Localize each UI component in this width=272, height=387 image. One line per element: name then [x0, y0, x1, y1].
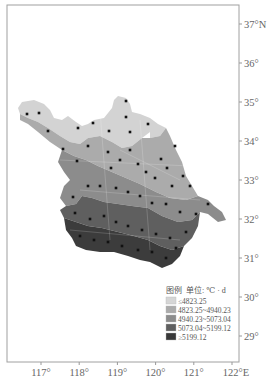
- station-marker: [26, 113, 29, 116]
- station-marker: [137, 163, 140, 166]
- station-marker: [166, 167, 169, 170]
- legend-swatch: [166, 315, 176, 322]
- x-tick-label: 122°E: [223, 367, 249, 378]
- y-tick-label: 37°N: [244, 19, 267, 30]
- station-marker: [165, 257, 168, 260]
- station-marker: [151, 202, 154, 205]
- x-tick-label: 119°: [108, 367, 128, 378]
- station-marker: [93, 239, 96, 242]
- station-marker: [110, 167, 113, 170]
- station-marker: [147, 123, 150, 126]
- station-marker: [89, 218, 92, 221]
- legend: 图例 单位: ℃ · d ≤4823.254823.25~4940.234940…: [166, 285, 231, 342]
- legend-swatch: [166, 297, 176, 304]
- y-tick-label: 35°: [244, 97, 259, 108]
- station-marker: [77, 127, 80, 130]
- x-tick-label: 120°: [146, 367, 166, 378]
- legend-swatch: [166, 324, 176, 331]
- station-marker: [195, 213, 198, 216]
- station-marker: [169, 237, 172, 240]
- station-marker: [165, 203, 168, 206]
- station-marker: [115, 221, 118, 224]
- station-marker: [145, 171, 148, 174]
- station-marker: [74, 212, 77, 215]
- station-marker: [125, 100, 128, 103]
- station-marker: [107, 241, 110, 244]
- station-marker: [141, 229, 144, 232]
- x-axis: 117°118°119°120°121°122°E: [31, 362, 249, 378]
- legend-label: 4823.25~4940.23: [178, 306, 231, 315]
- station-marker: [127, 225, 130, 228]
- station-marker: [47, 130, 50, 133]
- station-marker: [76, 160, 79, 163]
- station-marker: [155, 233, 158, 236]
- legend-swatch: [166, 306, 176, 313]
- station-marker: [137, 249, 140, 252]
- station-marker: [119, 159, 122, 162]
- legend-title: 图例: [166, 285, 182, 295]
- x-tick-label: 117°: [31, 367, 51, 378]
- station-marker: [62, 148, 65, 151]
- station-marker: [182, 175, 185, 178]
- station-marker: [108, 130, 111, 133]
- y-tick-label: 30°: [244, 292, 259, 303]
- y-tick-label: 36°: [244, 58, 259, 69]
- y-tick-label: 31°: [244, 253, 259, 264]
- station-marker: [79, 235, 82, 238]
- station-marker: [179, 211, 182, 214]
- station-marker: [175, 247, 178, 250]
- y-tick-label: 33°: [244, 175, 259, 186]
- station-marker: [125, 116, 128, 119]
- station-marker: [99, 185, 102, 188]
- legend-unit: 单位: ℃ · d: [186, 285, 226, 295]
- station-marker: [207, 203, 210, 206]
- x-tick-label: 121°: [184, 367, 204, 378]
- legend-label: ≤4823.25: [178, 297, 207, 306]
- station-marker: [154, 177, 157, 180]
- legend-label: 5073.04~5199.12: [178, 324, 231, 333]
- station-marker: [72, 196, 75, 199]
- legend-label: ≥5199.12: [178, 333, 207, 342]
- station-marker: [103, 215, 106, 218]
- station-marker: [87, 185, 90, 188]
- station-marker: [107, 151, 110, 154]
- station-marker: [139, 195, 142, 198]
- station-marker: [127, 191, 130, 194]
- station-marker: [121, 245, 124, 248]
- map-figure: 117°118°119°120°121°122°E 37°N36°35°34°3…: [0, 0, 272, 387]
- station-marker: [160, 158, 163, 161]
- station-marker: [92, 122, 95, 125]
- legend-swatch: [166, 333, 176, 340]
- y-axis: 37°N36°35°34°33°32°31°30°29°: [239, 19, 267, 342]
- y-tick-label: 32°: [244, 214, 259, 225]
- station-marker: [87, 145, 90, 148]
- station-marker: [174, 145, 177, 148]
- station-marker: [185, 231, 188, 234]
- x-tick-label: 118°: [69, 367, 89, 378]
- station-marker: [115, 187, 118, 190]
- region-layer: [18, 96, 226, 268]
- station-marker: [129, 131, 132, 134]
- y-tick-label: 29°: [244, 331, 259, 342]
- station-marker: [171, 185, 174, 188]
- station-marker: [151, 251, 154, 254]
- station-marker: [189, 185, 192, 188]
- station-marker: [38, 112, 41, 115]
- y-tick-label: 34°: [244, 136, 259, 147]
- station-marker: [129, 149, 132, 152]
- legend-label: 4940.23~5073.04: [178, 315, 231, 324]
